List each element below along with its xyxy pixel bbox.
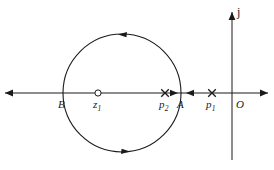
complex-plane-diagram: B z1 p2 A p1 O j — [0, 0, 274, 170]
imaginary-axis-arrow-up-icon — [229, 12, 236, 20]
point-label-z1: z1 — [93, 99, 101, 110]
point-label-O: O — [236, 99, 244, 110]
zero-marker-z1-icon — [95, 90, 101, 96]
diagram-canvas — [0, 0, 274, 170]
real-axis-arrow-right-icon — [260, 90, 268, 97]
real-axis-direction-arrow-right-icon — [170, 90, 178, 96]
contour-arrow-top-icon — [118, 32, 127, 37]
point-label-B: B — [58, 99, 65, 110]
real-axis-direction-arrow-left-icon — [186, 90, 194, 96]
real-axis-arrow-left-icon — [5, 90, 13, 97]
point-label-p2: p2 — [159, 99, 168, 110]
contour-arrow-bottom-icon — [121, 149, 130, 154]
imaginary-axis-label: j — [237, 6, 240, 18]
point-label-A: A — [177, 99, 184, 110]
point-label-p1: p1 — [206, 99, 215, 110]
